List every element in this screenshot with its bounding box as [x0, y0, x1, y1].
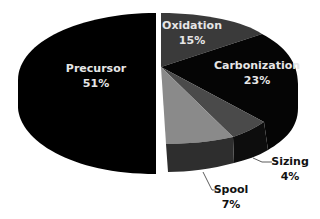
label-oxidation-pct: 15%	[179, 34, 205, 47]
label-spool-name: Spool	[214, 183, 249, 196]
label-oxidation-name: Oxidation	[162, 19, 222, 32]
label-precursor-pct: 51%	[83, 77, 109, 90]
slice-precursor	[18, 13, 156, 174]
label-carbonization-pct: 23%	[244, 74, 270, 87]
leader-line-sizing	[253, 158, 272, 162]
label-sizing-name: Sizing	[271, 155, 309, 168]
label-precursor-name: Precursor	[66, 62, 127, 75]
label-sizing-pct: 4%	[281, 170, 300, 183]
label-spool-pct: 7%	[222, 198, 241, 211]
label-carbonization-name: Carbonization	[214, 59, 300, 72]
pie-chart: Precursor 51% Oxidation 15% Carbonizatio…	[0, 0, 320, 219]
